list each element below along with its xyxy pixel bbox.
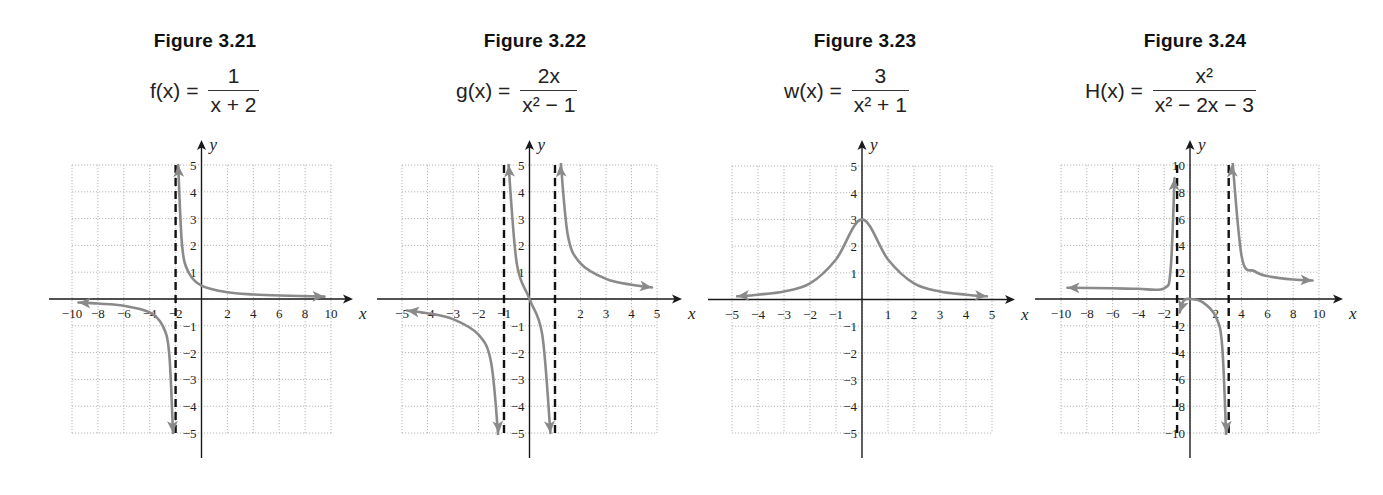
figure-3-24: Figure 3.24 H(x) = x² x² − 2x − 3 xy−10−… <box>0 0 1383 495</box>
x-tick-label: −4 <box>1131 306 1145 321</box>
x-tick-label: 4 <box>1238 306 1245 321</box>
x-tick-label: −6 <box>1106 306 1120 321</box>
plot-h: xy−10−8−6−4−2246810−10−8−6−4−2246810 <box>0 0 1383 495</box>
x-tick-label: 8 <box>1290 306 1297 321</box>
y-tick-label: 8 <box>1179 185 1186 200</box>
x-tick-label: −8 <box>1080 306 1094 321</box>
y-tick-label: −6 <box>1171 372 1185 387</box>
x-tick-label: −2 <box>1157 306 1171 321</box>
y-tick-label: −10 <box>1165 426 1185 441</box>
x-axis-label: x <box>1348 304 1357 323</box>
y-tick-label: 4 <box>1179 238 1186 253</box>
x-tick-label: 6 <box>1264 306 1271 321</box>
y-axis-label: y <box>1196 135 1206 154</box>
function-curve <box>1067 178 1174 290</box>
x-tick-label: −10 <box>1051 306 1071 321</box>
y-tick-label: 2 <box>1179 265 1186 280</box>
y-tick-label: 10 <box>1172 158 1185 173</box>
y-tick-label: 6 <box>1179 212 1186 227</box>
x-tick-label: 10 <box>1313 306 1326 321</box>
function-curve <box>1180 299 1227 453</box>
y-tick-label: −4 <box>1171 346 1185 361</box>
